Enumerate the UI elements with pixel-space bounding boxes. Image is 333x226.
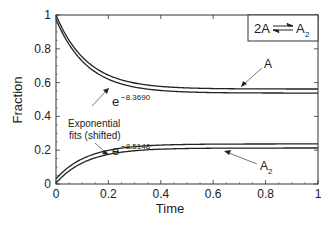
y-axis-label: Fraction: [10, 77, 25, 124]
series-line-2: [56, 144, 318, 179]
arrow-a2: [229, 153, 257, 164]
fits-label-line2: fits (shifted): [69, 130, 121, 141]
y-tick-label: 0.8: [34, 42, 51, 56]
arrow-fit-a: [92, 91, 106, 106]
reaction-right-sub: 2: [305, 30, 310, 39]
x-tick-label: 1: [315, 187, 322, 201]
x-tick-label: 0.4: [152, 187, 169, 201]
label-a: A: [264, 57, 272, 71]
x-tick-label: 0.6: [205, 187, 222, 201]
exp-fit-a2-exponent: −8.5148: [121, 142, 151, 151]
exp-fit-a-exponent: −8.3690: [121, 93, 151, 102]
arrow-a: [244, 68, 262, 84]
chart: 00.20.40.60.8100.20.40.60.81 2A A 2 A A …: [0, 0, 333, 226]
y-tick-label: 0: [44, 177, 51, 191]
y-tick-label: 0.2: [34, 143, 51, 157]
arrow-a2-head: [224, 150, 231, 155]
label-a2-sub: 2: [268, 167, 273, 176]
x-tick-label: 0: [53, 187, 60, 201]
y-tick-label: 0.4: [34, 109, 51, 123]
x-tick-label: 0.2: [100, 187, 117, 201]
fits-label-line1: Exponential: [68, 118, 120, 129]
y-tick-label: 0.6: [34, 76, 51, 90]
exp-fit-a-label: e: [112, 94, 119, 109]
reaction-right: A: [296, 21, 305, 36]
arrow-fit-a2: [95, 143, 105, 152]
exp-fit-a2-label: e: [112, 143, 119, 158]
y-tick-label: 1: [44, 8, 51, 22]
reaction-left: 2A: [254, 21, 270, 36]
x-tick-label: 0.8: [257, 187, 274, 201]
label-a2: A: [260, 159, 268, 173]
x-axis-label: Time: [156, 201, 184, 216]
